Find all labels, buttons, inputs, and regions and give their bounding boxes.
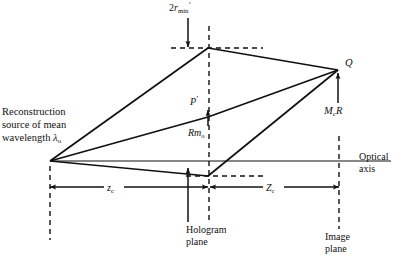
zc-small-subscript: c bbox=[111, 187, 114, 194]
rmin-subscript: min bbox=[178, 7, 189, 14]
ray-source-to-lower-vertex bbox=[50, 161, 208, 176]
source-line-1: Reconstruction bbox=[2, 106, 66, 119]
optical-axis-line-2: axis bbox=[359, 163, 388, 175]
label-optical-axis: Optical axis bbox=[359, 151, 388, 175]
source-line-3: wavelength λo bbox=[2, 132, 66, 146]
hologram-plane-line-1: Hologram bbox=[186, 224, 227, 236]
label-rm-zero: Rmo bbox=[188, 127, 205, 140]
figure-root: 2rmin′ Reconstruction source of mean wav… bbox=[0, 0, 404, 264]
label-resolution-limit: 2rmin′ bbox=[169, 2, 190, 15]
source-line-3-prefix: wavelength bbox=[2, 132, 53, 143]
lambda-subscript: o bbox=[58, 137, 62, 145]
hologram-plane-line-2: plane bbox=[186, 236, 227, 248]
ray-top-vertex-to-q bbox=[208, 48, 338, 70]
mcr-symbol-m: M bbox=[324, 105, 333, 116]
label-mcr: McR bbox=[324, 105, 342, 118]
optical-axis-line-1: Optical bbox=[359, 151, 388, 163]
q-symbol: Q bbox=[345, 57, 353, 68]
label-image-plane: Image plane bbox=[325, 231, 350, 255]
rmin-prime: ′ bbox=[188, 1, 190, 10]
label-point-p-prime: P′ bbox=[190, 96, 198, 108]
label-distance-zc-large: Zc bbox=[266, 182, 275, 195]
label-reconstruction-source: Reconstruction source of mean wavelength… bbox=[2, 106, 66, 145]
source-line-2: source of mean bbox=[2, 119, 66, 132]
zc-large-subscript: c bbox=[272, 187, 275, 194]
rm0-subscript: o bbox=[201, 132, 204, 139]
label-distance-zc-small: zc bbox=[107, 182, 114, 195]
image-plane-line-1: Image bbox=[325, 231, 350, 243]
mcr-symbol-r: R bbox=[336, 105, 342, 116]
label-point-q: Q bbox=[345, 57, 353, 69]
p-prime-mark: ′ bbox=[196, 95, 198, 104]
source-rays bbox=[50, 48, 208, 176]
ray-p-prime-to-q bbox=[208, 70, 338, 117]
image-rays bbox=[208, 48, 338, 176]
ray-lower-vertex-to-q bbox=[208, 70, 338, 176]
label-hologram-plane: Hologram plane bbox=[186, 224, 227, 248]
ray-source-to-p-prime bbox=[50, 117, 208, 161]
construction-dashed-lines bbox=[171, 48, 263, 176]
ray-source-to-top-vertex bbox=[50, 48, 208, 161]
image-plane-line-2: plane bbox=[325, 243, 350, 255]
